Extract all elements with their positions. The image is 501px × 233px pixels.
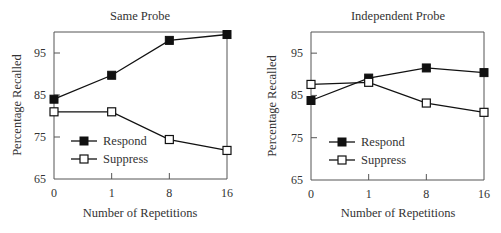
y-axis-label: Percentage Recalled	[10, 53, 24, 155]
open-square-marker-icon	[338, 156, 346, 164]
y-axis-ticks: 65758595	[291, 46, 317, 187]
open-square-marker-icon	[108, 108, 116, 116]
filled-square-marker-icon	[338, 138, 346, 146]
chart-same-probe: Same Probe 65758595 01816 Percentage Rec…	[10, 9, 233, 220]
x-tick-label: 16	[221, 186, 233, 200]
chart-title: Same Probe	[110, 9, 171, 23]
y-tick-label: 85	[291, 88, 303, 102]
y-tick-label: 95	[34, 46, 46, 60]
open-square-marker-icon	[165, 136, 173, 144]
filled-square-marker-icon	[80, 137, 88, 145]
x-tick-label: 0	[308, 187, 314, 201]
legend-item-respond: Respond	[329, 135, 406, 149]
legend-label: Suppress	[361, 153, 406, 167]
y-tick-label: 75	[291, 131, 303, 145]
open-square-marker-icon	[480, 108, 488, 116]
legend-label: Suppress	[103, 152, 148, 166]
open-square-marker-icon	[365, 78, 373, 86]
filled-square-marker-icon	[480, 69, 488, 77]
x-tick-label: 0	[51, 186, 57, 200]
y-tick-label: 65	[291, 173, 303, 187]
legend-item-respond: Respond	[71, 134, 148, 148]
x-axis-ticks: 01816	[51, 173, 233, 200]
filled-square-marker-icon	[223, 31, 231, 39]
y-tick-label: 65	[34, 172, 46, 186]
x-axis-label: Number of Repetitions	[83, 206, 198, 220]
open-square-marker-icon	[422, 99, 430, 107]
legend-label: Respond	[103, 134, 148, 148]
open-square-marker-icon	[80, 155, 88, 163]
series-respond	[50, 31, 231, 104]
filled-square-marker-icon	[422, 64, 430, 72]
legend-item-suppress: Suppress	[71, 152, 148, 166]
legend: Respond Suppress	[71, 134, 148, 166]
y-axis-label: Percentage Recalled	[265, 54, 279, 156]
legend-label: Respond	[361, 135, 406, 149]
y-tick-label: 85	[34, 88, 46, 102]
open-square-marker-icon	[223, 146, 231, 154]
chart-independent-probe: Independent Probe 65758595 01816 Percent…	[265, 9, 490, 220]
x-tick-label: 1	[366, 187, 372, 201]
series-suppress	[307, 78, 488, 116]
figure: Same Probe 65758595 01816 Percentage Rec…	[0, 0, 501, 233]
y-tick-label: 75	[34, 130, 46, 144]
legend: Respond Suppress	[329, 135, 406, 167]
data-series	[307, 64, 488, 116]
x-tick-label: 8	[423, 187, 429, 201]
open-square-marker-icon	[50, 108, 58, 116]
x-tick-label: 1	[109, 186, 115, 200]
filled-square-marker-icon	[165, 36, 173, 44]
filled-square-marker-icon	[108, 71, 116, 79]
filled-square-marker-icon	[50, 95, 58, 103]
x-axis-label: Number of Repetitions	[341, 206, 456, 220]
x-tick-label: 16	[478, 187, 490, 201]
legend-item-suppress: Suppress	[329, 153, 406, 167]
x-axis-ticks: 01816	[308, 174, 490, 201]
open-square-marker-icon	[307, 80, 315, 88]
y-tick-label: 95	[291, 46, 303, 60]
chart-title: Independent Probe	[351, 9, 446, 23]
filled-square-marker-icon	[307, 97, 315, 105]
x-tick-label: 8	[166, 186, 172, 200]
